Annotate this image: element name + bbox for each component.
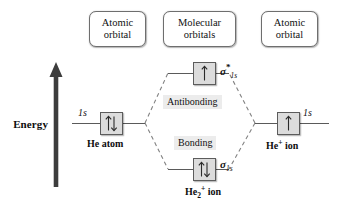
ao-left-orbital-label-text: 1s (78, 107, 87, 118)
single-electron-arrow-icon (278, 113, 299, 134)
level-line-ao-left (72, 123, 101, 124)
category-box-atomic-orbital-left: Atomic orbital (89, 11, 146, 47)
level-line-ao-right (299, 123, 329, 124)
energy-arrow-icon (49, 62, 63, 187)
single-electron-arrow-icon (194, 63, 215, 84)
category-middle-line2: orbitals (184, 29, 216, 42)
orbital-box-bonding (193, 158, 216, 181)
category-box-atomic-orbital-right: Atomic orbital (261, 11, 318, 47)
antibonding-subscript: 1s (230, 71, 237, 80)
ao-right-species-suffix: ion (283, 140, 299, 151)
orbital-box-antibonding (193, 62, 216, 85)
ao-left-orbital-label: 1s (78, 107, 87, 118)
orbital-box-ao-right (277, 112, 300, 135)
ao-right-orbital-label: 1s (303, 107, 312, 118)
orbital-box-ao-left (100, 112, 123, 135)
category-left-line2: orbital (104, 29, 131, 42)
electron-pair-arrows-icon (101, 113, 122, 134)
antibonding-orbital-label: σ*1s (220, 62, 237, 80)
level-line-bonding-left (168, 169, 194, 170)
category-right-line1: Atomic (274, 17, 306, 30)
ao-right-species-label: He+ ion (266, 138, 298, 151)
electron-pair-arrows-icon (194, 159, 215, 180)
level-line-ao-left-inner (122, 123, 145, 124)
molecule-species-label: He2+ ion (185, 184, 221, 200)
molecule-suffix: ion (205, 186, 221, 197)
category-right-line2: orbital (276, 29, 303, 42)
molecule-text: He (185, 186, 197, 197)
level-line-antibonding-left (168, 73, 194, 74)
ao-right-species-text: He (266, 140, 278, 151)
energy-axis-label: Energy (4, 118, 48, 130)
antibonding-type-label: Antibonding (163, 95, 222, 109)
category-middle-line1: Molecular (178, 17, 221, 30)
category-left-line1: Atomic (102, 17, 134, 30)
level-line-ao-right-inner (255, 123, 278, 124)
mo-energy-diagram: Atomic orbital Molecular orbitals Atomic… (0, 0, 338, 208)
bonding-orbital-label: σ1s (220, 158, 233, 173)
bonding-subscript: 1s (226, 164, 233, 173)
category-box-molecular-orbitals: Molecular orbitals (163, 11, 236, 47)
ao-right-orbital-label-text: 1s (303, 107, 312, 118)
ao-left-species-label: He atom (87, 138, 123, 149)
bonding-type-label: Bonding (174, 136, 216, 150)
